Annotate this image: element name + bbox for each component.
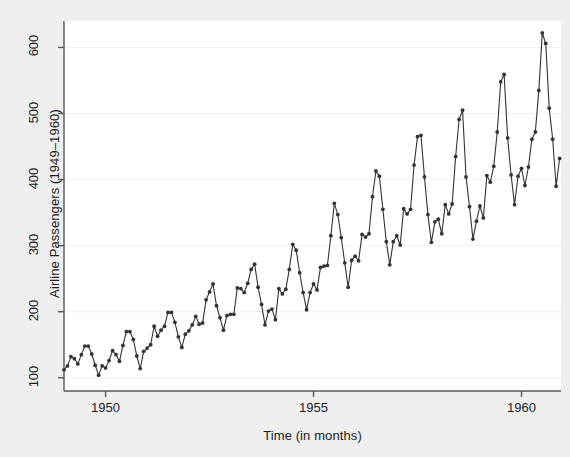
chart-figure: Airline Passengers (1949–1960) Time (in …: [0, 0, 570, 457]
x-tick-label: 1955: [279, 400, 349, 415]
x-axis-title: Time (in months): [64, 428, 561, 443]
axis-lines: [64, 21, 561, 391]
line-chart: [0, 0, 570, 457]
axis-ticks: [58, 47, 521, 397]
y-axis-title: Airline Passengers (1949–1960): [47, 64, 62, 344]
x-tick-label: 1950: [71, 400, 141, 415]
y-tick-label: 100: [26, 354, 41, 398]
data-markers: [62, 31, 561, 377]
y-tick-label: 500: [26, 90, 41, 134]
data-line: [64, 33, 560, 375]
x-tick-label: 1960: [486, 400, 556, 415]
y-tick-label: 300: [26, 222, 41, 266]
y-tick-label: 600: [26, 24, 41, 68]
gridlines: [64, 47, 561, 377]
y-tick-label: 200: [26, 288, 41, 332]
y-tick-label: 400: [26, 156, 41, 200]
